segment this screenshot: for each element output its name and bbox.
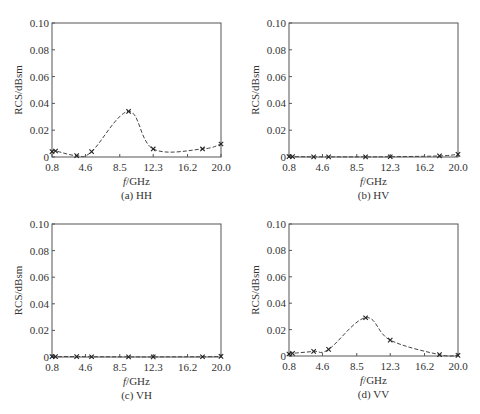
plot-frame bbox=[52, 23, 221, 157]
chart-caption: (b) HV bbox=[358, 189, 390, 202]
y-tick-label: 0.06 bbox=[267, 71, 287, 83]
y-axis-label: RCS/dBsm bbox=[249, 65, 261, 115]
x-axis-label: f/GHz bbox=[123, 175, 150, 187]
x-tick-label: 4.6 bbox=[79, 161, 93, 173]
x-tick-label: 20.0 bbox=[448, 161, 468, 173]
y-tick-label: 0.04 bbox=[30, 97, 50, 109]
chart-panel-c: 00.020.040.060.080.100.84.68.512.316.220… bbox=[12, 218, 231, 402]
x-tick-label: 16.2 bbox=[415, 360, 434, 372]
y-tick-label: 0.08 bbox=[267, 44, 287, 56]
x-tick-label: 0.8 bbox=[282, 360, 296, 372]
y-tick-label: 0.10 bbox=[267, 218, 287, 230]
chart-panel-d: 00.020.040.060.080.100.84.68.512.316.220… bbox=[249, 218, 468, 401]
y-tick-label: 0.06 bbox=[30, 71, 50, 83]
x-tick-label: 16.2 bbox=[178, 361, 197, 373]
x-tick-label: 12.3 bbox=[381, 161, 401, 173]
y-tick-label: 0.10 bbox=[267, 17, 287, 29]
y-tick-label: 0.04 bbox=[267, 97, 287, 109]
x-tick-label: 12.3 bbox=[144, 161, 164, 173]
y-axis-label: RCS/dBsm bbox=[249, 265, 261, 315]
x-tick-label: 8.5 bbox=[350, 161, 364, 173]
x-tick-label: 16.2 bbox=[178, 161, 197, 173]
y-tick-label: 0.02 bbox=[30, 324, 49, 336]
x-marker-icon bbox=[326, 347, 330, 351]
x-axis-label: f/GHz bbox=[360, 175, 387, 187]
x-tick-label: 8.5 bbox=[113, 361, 127, 373]
y-tick-label: 0.02 bbox=[30, 124, 49, 136]
x-tick-label: 20.0 bbox=[448, 360, 468, 372]
y-tick-label: 0.02 bbox=[267, 124, 286, 136]
x-tick-label: 20.0 bbox=[211, 161, 231, 173]
y-tick-label: 0.10 bbox=[30, 218, 50, 230]
x-tick-label: 4.6 bbox=[316, 360, 330, 372]
plot-frame bbox=[289, 224, 458, 356]
y-tick-label: 0.08 bbox=[30, 245, 50, 257]
x-tick-label: 8.5 bbox=[350, 360, 364, 372]
x-tick-label: 16.2 bbox=[415, 161, 434, 173]
x-tick-label: 12.3 bbox=[144, 361, 164, 373]
y-tick-label: 0.06 bbox=[30, 271, 50, 283]
chart-panel-a: 00.020.040.060.080.100.84.68.512.316.220… bbox=[12, 17, 231, 202]
chart-caption: (a) HH bbox=[121, 189, 152, 202]
x-tick-label: 8.5 bbox=[113, 161, 127, 173]
x-tick-label: 4.6 bbox=[316, 161, 330, 173]
x-marker-icon bbox=[388, 338, 392, 342]
x-tick-label: 12.3 bbox=[381, 360, 401, 372]
rcs-figure: 00.020.040.060.080.100.84.68.512.316.220… bbox=[0, 0, 480, 414]
y-axis-label: RCS/dBsm bbox=[12, 65, 24, 115]
x-marker-icon bbox=[89, 149, 93, 153]
plot-frame bbox=[52, 224, 221, 357]
x-marker-icon bbox=[151, 147, 155, 151]
x-axis-label: f/GHz bbox=[123, 375, 150, 387]
x-tick-label: 0.8 bbox=[282, 161, 296, 173]
y-tick-label: 0.10 bbox=[30, 17, 50, 29]
chart-caption: (d) VV bbox=[358, 388, 389, 401]
chart-panel-b: 00.020.040.060.080.100.84.68.512.316.220… bbox=[249, 17, 468, 202]
y-tick-label: 0.06 bbox=[267, 271, 287, 283]
y-tick-label: 0.08 bbox=[30, 44, 50, 56]
x-tick-label: 0.8 bbox=[45, 361, 59, 373]
x-axis-label: f/GHz bbox=[360, 374, 387, 386]
y-axis-label: RCS/dBsm bbox=[12, 265, 24, 315]
x-tick-label: 20.0 bbox=[211, 361, 231, 373]
y-tick-label: 0.04 bbox=[30, 298, 50, 310]
x-tick-label: 4.6 bbox=[79, 361, 93, 373]
x-tick-label: 0.8 bbox=[45, 161, 59, 173]
y-tick-label: 0.04 bbox=[267, 297, 287, 309]
chart-caption: (c) VH bbox=[121, 389, 152, 402]
series-line-HH bbox=[52, 111, 221, 156]
y-tick-label: 0.02 bbox=[267, 324, 286, 336]
y-tick-label: 0.08 bbox=[267, 244, 287, 256]
plot-frame bbox=[289, 23, 458, 157]
